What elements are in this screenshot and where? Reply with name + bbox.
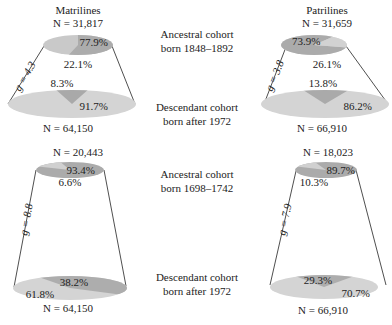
descendant-count: N = 64,150 [43,122,93,134]
descendant-pct-dark: 8.3% [51,77,74,89]
ancestor-count: N = 31,659 [302,17,352,29]
ancestral-cohort-years-2: born 1698–1742 [161,182,233,194]
descendant-pct-dark: 13.8% [309,77,337,89]
ancestor-pct-light: 6.6% [59,176,82,188]
ancestral-cohort-years-1: born 1848–1892 [161,42,233,54]
frustum-right-edge [104,170,126,286]
ancestor-count: N = 20,443 [53,146,103,158]
ancestor-pct-light: 22.1% [64,58,92,70]
frustum-right-edge [356,170,386,285]
ancestor-count: N = 31,817 [53,17,103,29]
ancestor-pct-dark: 73.9% [292,35,320,47]
ancestor-pct-dark: 89.7% [327,164,355,176]
descendant-cohort-years-2: born after 1972 [163,285,231,297]
ancestral-cohort-label-1: Ancestral cohort [161,28,234,40]
ancestor-pct-dark: 77.9% [80,36,108,48]
growth-factor: g = 8.8 [17,202,34,236]
descendant-pct-light: 70.7% [342,287,370,299]
cohort-diagram: Matrilines N = 31,817 77.9% 22.1% 8.3% 9… [0,0,392,325]
descendant-pct-dark: 29.3% [304,274,332,286]
ancestor-pct-dark: 93.4% [67,164,95,176]
descendant-cohort-years-1: born after 1972 [163,115,231,127]
ancestor-pct-light: 26.1% [313,58,341,70]
descendant-cohort-label-2: Descendant cohort [156,271,238,283]
panel-patrilines-recent: Patrilines N = 31,659 73.9% 26.1% 13.8% … [258,4,392,134]
center-labels: Ancestral cohort born 1848–1892 Descenda… [156,28,238,297]
descendant-cohort-label-1: Descendant cohort [156,101,238,113]
descendant-count: N = 66,910 [297,122,347,134]
group-title: Patrilines [306,4,348,16]
descendant-pct-dark: 38.2% [60,276,88,288]
panel-matrilines-recent: Matrilines N = 31,817 77.9% 22.1% 8.3% 9… [0,4,145,134]
ancestor-count: N = 18,023 [303,146,353,158]
descendant-count: N = 66,910 [298,304,348,316]
ancestor-pct-light: 10.3% [300,176,328,188]
descendant-pct-light: 86.2% [344,100,372,112]
growth-factor: g = 3.8 [263,58,286,93]
descendant-pct-light: 61.8% [26,288,54,300]
ancestral-cohort-label-2: Ancestral cohort [161,168,234,180]
growth-factor: g = 4.3 [11,59,38,93]
growth-factor: g = 7.9 [275,202,294,236]
panel-matrilines-early: N = 20,443 93.4% 6.6% 38.2% 61.8% N = 64… [10,146,130,314]
descendant-count: N = 64,150 [43,302,93,314]
group-title: Matrilines [55,4,100,16]
panel-patrilines-early: N = 18,023 89.7% 10.3% 29.3% 70.7% N = 6… [268,146,386,316]
descendant-pct-light: 91.7% [80,100,108,112]
